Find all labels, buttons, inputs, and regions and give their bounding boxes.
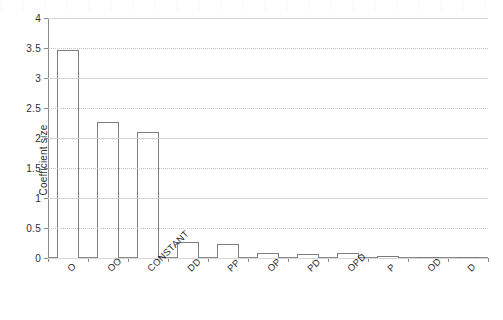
bar (217, 244, 239, 258)
y-tick-mark (44, 228, 48, 229)
gridline (48, 168, 488, 169)
bar (97, 122, 119, 258)
bar (57, 50, 79, 258)
y-tick-mark (44, 258, 48, 259)
y-tick-label: 1 (35, 193, 41, 204)
y-tick-mark (44, 18, 48, 19)
y-tick-label: 2 (35, 133, 41, 144)
y-tick-mark (44, 138, 48, 139)
x-axis-labels: OOOCONSTANTDDPPOPPDOPDPODD (48, 262, 488, 320)
y-tick-mark (44, 48, 48, 49)
y-tick-label: 3 (35, 73, 41, 84)
x-tick-label: PP (225, 257, 242, 274)
gridline (48, 138, 488, 139)
y-tick-label: 1.5 (26, 163, 41, 174)
bar (137, 132, 159, 258)
gridline (48, 228, 488, 229)
y-tick-mark (44, 108, 48, 109)
x-tick-mark (488, 258, 489, 262)
y-tick-label: 4 (35, 13, 41, 24)
y-tick-label: 0 (35, 253, 41, 264)
y-tick-mark (44, 78, 48, 79)
scan-artifact (0, 0, 503, 10)
x-tick-label: D (465, 261, 478, 274)
x-tick-label: P (385, 261, 397, 273)
bar-chart: Coefficient size 00.511.522.533.54 OOOCO… (0, 0, 503, 320)
y-tick-label: 2.5 (26, 103, 41, 114)
y-tick-label: 3.5 (26, 43, 41, 54)
gridline (48, 108, 488, 109)
x-tick-label: O (65, 261, 78, 274)
plot-area: 00.511.522.533.54 (48, 18, 488, 258)
gridline (48, 48, 488, 49)
gridline (48, 18, 488, 19)
y-tick-mark (44, 168, 48, 169)
gridline (48, 78, 488, 79)
gridline (48, 198, 488, 199)
y-tick-label: 0.5 (26, 223, 41, 234)
y-tick-mark (44, 198, 48, 199)
